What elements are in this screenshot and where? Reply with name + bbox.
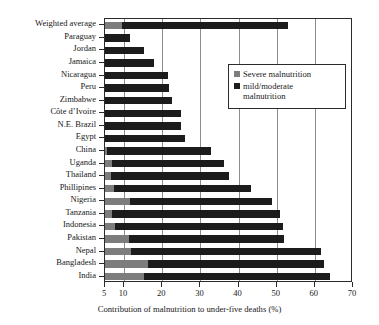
legend-label-severe: Severe malnutrition — [243, 69, 311, 80]
category-tick — [99, 238, 104, 239]
bar-row — [105, 235, 353, 243]
bar-row — [105, 147, 353, 155]
bar-segment-mild — [105, 110, 181, 118]
legend-item-mild[interactable]: mild/moderate malnutrition — [234, 81, 340, 102]
bar-segment-mild — [112, 210, 279, 218]
bar-segment-severe — [105, 223, 115, 231]
category-label: Bangladesh — [56, 258, 96, 267]
category-label: N.E. Brazil — [58, 120, 96, 129]
bar-segment-severe — [105, 185, 114, 193]
legend-item-severe[interactable]: Severe malnutrition — [234, 69, 340, 80]
category-label: Nigeria — [71, 195, 97, 204]
x-tick-label: 20 — [149, 288, 173, 298]
bar-segment-mild — [122, 22, 288, 30]
bar-segment-severe — [105, 210, 112, 218]
category-label: Tanzania — [65, 208, 96, 217]
category-tick — [99, 276, 104, 277]
bar-segment-mild — [131, 248, 321, 256]
category-label: Paraguay — [64, 32, 96, 41]
category-label: Weighted average — [35, 19, 96, 28]
bar-segment-mild — [105, 135, 185, 143]
x-tick-mark — [161, 282, 162, 287]
bar-segment-mild — [130, 198, 272, 206]
category-label: Nicaragua — [61, 70, 96, 79]
category-tick — [99, 225, 104, 226]
category-tick — [99, 150, 104, 151]
category-tick — [99, 263, 104, 264]
x-tick-mark — [199, 282, 200, 287]
category-label: India — [79, 271, 96, 280]
bar-row — [105, 198, 353, 206]
bar-row — [105, 110, 353, 118]
category-tick — [99, 175, 104, 176]
category-tick — [99, 37, 104, 38]
bar-segment-severe — [105, 198, 130, 206]
x-tick-label: 10 — [111, 288, 135, 298]
malnutrition-bar-chart: Weighted averageParaguayJordanJamaicaNic… — [0, 0, 379, 325]
category-tick — [99, 200, 104, 201]
bar-segment-mild — [105, 97, 172, 105]
bar-segment-mild — [105, 34, 130, 42]
x-axis-title: Contribution of malnutrition to under-fi… — [0, 304, 379, 314]
bar-row — [105, 185, 353, 193]
x-tick-mark — [104, 282, 105, 287]
legend-swatch-mild-icon — [234, 83, 240, 89]
category-label: Côte d’Ivoire — [50, 107, 96, 116]
legend-swatch-severe-icon — [234, 71, 240, 77]
bar-segment-severe — [105, 273, 144, 281]
category-label: Pakistan — [67, 233, 96, 242]
bar-row — [105, 122, 353, 130]
category-label: Jamaica — [69, 57, 96, 66]
legend-label-mild: mild/moderate malnutrition — [243, 81, 293, 102]
category-tick — [99, 49, 104, 50]
x-tick-label: 60 — [302, 288, 326, 298]
bar-row — [105, 22, 353, 30]
bar-segment-severe — [105, 160, 112, 168]
category-tick — [99, 24, 104, 25]
bar-segment-mild — [115, 223, 284, 231]
x-tick-mark — [314, 282, 315, 287]
category-tick — [99, 163, 104, 164]
category-tick — [99, 112, 104, 113]
category-axis-labels: Weighted averageParaguayJordanJamaicaNic… — [0, 18, 100, 282]
bar-segment-mild — [114, 185, 251, 193]
bar-segment-severe — [105, 22, 122, 30]
category-tick — [99, 75, 104, 76]
bar-row — [105, 135, 353, 143]
bar-row — [105, 248, 353, 256]
category-label: Uganda — [70, 158, 96, 167]
x-tick-label: 30 — [187, 288, 211, 298]
category-tick — [99, 87, 104, 88]
chart-legend: Severe malnutrition mild/moderate malnut… — [228, 64, 346, 109]
bar-segment-severe — [105, 260, 148, 268]
bar-segment-mild — [105, 84, 169, 92]
category-label: Phillipines — [60, 183, 96, 192]
bar-segment-mild — [105, 47, 144, 55]
bar-segment-severe — [105, 235, 129, 243]
x-tick-label: 70 — [340, 288, 364, 298]
plot-area — [104, 18, 352, 282]
bar-segment-mild — [107, 147, 211, 155]
x-tick-mark — [123, 282, 124, 287]
category-tick — [99, 62, 104, 63]
category-tick — [99, 100, 104, 101]
category-label: Peru — [80, 82, 96, 91]
bar-row — [105, 210, 353, 218]
category-tick — [99, 188, 104, 189]
category-label: Nepal — [76, 246, 96, 255]
bar-row — [105, 160, 353, 168]
bar-row — [105, 273, 353, 281]
category-label: Egypt — [76, 132, 96, 141]
category-tick — [99, 251, 104, 252]
x-tick-label: 50 — [264, 288, 288, 298]
bar-row — [105, 223, 353, 231]
bar-row — [105, 34, 353, 42]
bar-segment-mild — [105, 59, 154, 67]
category-label: Indonesia — [63, 220, 96, 229]
category-tick — [99, 125, 104, 126]
bar-segment-mild — [144, 273, 329, 281]
category-label: Jordan — [73, 44, 96, 53]
x-tick-label: 40 — [226, 288, 250, 298]
category-tick — [99, 137, 104, 138]
x-tick-mark — [238, 282, 239, 287]
